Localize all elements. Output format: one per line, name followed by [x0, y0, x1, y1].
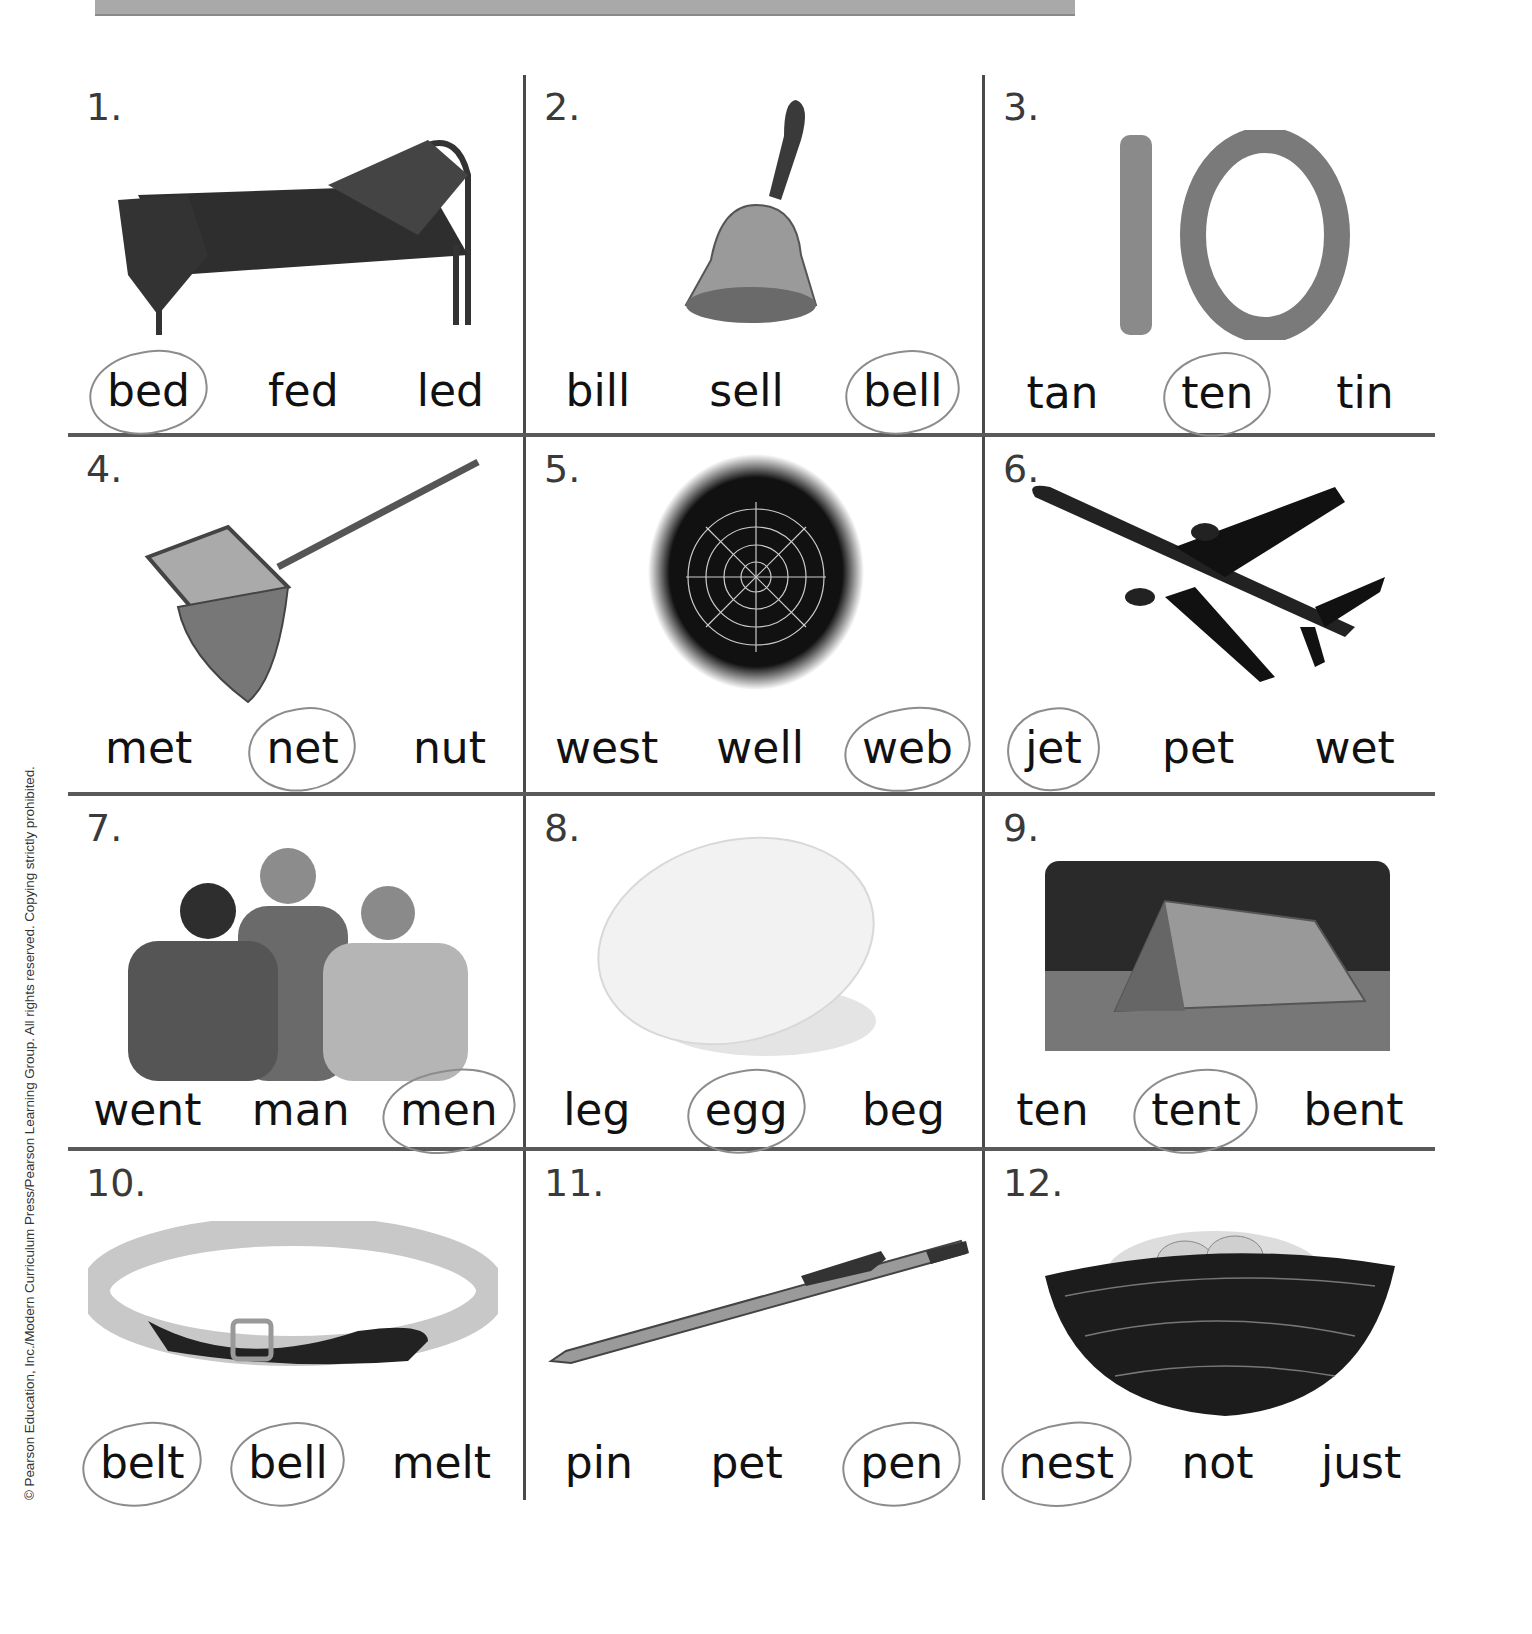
word-choice[interactable]: net — [262, 722, 342, 773]
word-choices: pin pet pen — [526, 1437, 982, 1488]
word-choice[interactable]: nut — [409, 722, 490, 773]
word-choice[interactable]: fed — [264, 365, 343, 416]
word-choice[interactable]: jet — [1021, 722, 1086, 773]
word-choice[interactable]: web — [858, 722, 957, 773]
bell-icon — [666, 95, 846, 335]
exercise-number: 5. — [544, 447, 580, 491]
word-choice[interactable]: pet — [706, 1437, 786, 1488]
number-ten-icon — [1115, 130, 1355, 340]
fishing-net-icon — [138, 457, 488, 707]
word-choice[interactable]: pet — [1158, 722, 1238, 773]
word-choice[interactable]: met — [101, 722, 196, 773]
word-choice[interactable]: ten — [1012, 1084, 1092, 1135]
exercise-cell-12: 12. nest not just — [985, 1151, 1435, 1500]
word-choice[interactable]: bill — [562, 365, 635, 416]
word-choice[interactable]: tin — [1332, 367, 1397, 418]
word-choices: tan ten tin — [985, 367, 1435, 418]
exercise-number: 3. — [1003, 85, 1039, 129]
word-choice[interactable]: pin — [561, 1437, 637, 1488]
word-choice[interactable]: beg — [858, 1084, 949, 1135]
word-choice[interactable]: melt — [388, 1437, 495, 1488]
exercise-cell-4: 4. met net nut — [68, 437, 523, 792]
word-choice[interactable]: west — [551, 722, 662, 773]
belt-icon — [88, 1221, 498, 1381]
word-choice[interactable]: ten — [1177, 367, 1257, 418]
exercise-number: 10. — [86, 1161, 146, 1205]
word-choice[interactable]: wet — [1311, 722, 1399, 773]
word-choice[interactable]: not — [1177, 1437, 1257, 1488]
word-choice[interactable]: bent — [1299, 1084, 1407, 1135]
bed-icon — [98, 125, 488, 335]
header-banner — [95, 0, 1075, 16]
word-choices: bed fed led — [68, 365, 523, 416]
airplane-icon — [1025, 477, 1395, 687]
word-choice[interactable]: just — [1317, 1437, 1405, 1488]
exercise-cell-10: 10. belt bell melt — [68, 1151, 523, 1500]
exercise-number: 2. — [544, 85, 580, 129]
word-choices: ten tent bent — [985, 1084, 1435, 1135]
exercise-cell-9: 9. ten tent bent — [985, 796, 1435, 1147]
word-choice[interactable]: nest — [1015, 1437, 1118, 1488]
word-choices: bill sell bell — [526, 365, 982, 416]
tent-icon — [1045, 861, 1390, 1051]
exercise-number: 8. — [544, 806, 580, 850]
exercise-number: 9. — [1003, 806, 1039, 850]
word-choices: leg egg beg — [526, 1084, 982, 1135]
word-choice[interactable]: bell — [244, 1437, 331, 1488]
spider-web-icon — [646, 452, 866, 692]
exercise-number: 1. — [86, 85, 122, 129]
exercise-number: 7. — [86, 806, 122, 850]
word-choice[interactable]: egg — [701, 1084, 792, 1135]
word-choice[interactable]: man — [248, 1084, 354, 1135]
word-choices: nest not just — [985, 1437, 1435, 1488]
word-choice[interactable]: bell — [859, 365, 946, 416]
word-choice[interactable]: bed — [103, 365, 194, 416]
exercise-cell-11: 11. pin pet pen — [526, 1151, 982, 1500]
word-choices: jet pet wet — [985, 722, 1435, 773]
word-choice[interactable]: led — [413, 365, 488, 416]
worksheet-grid: 1. bed fed led 2. bill sell bell 3. — [68, 75, 1435, 1500]
word-choices: went man men — [68, 1084, 523, 1135]
word-choices: west well web — [526, 722, 982, 773]
exercise-cell-8: 8. leg egg beg — [526, 796, 982, 1147]
pen-icon — [541, 1231, 971, 1371]
exercise-cell-2: 2. bill sell bell — [526, 75, 982, 433]
exercise-cell-3: 3. tan ten tin — [985, 75, 1435, 433]
word-choice[interactable]: went — [89, 1084, 205, 1135]
exercise-cell-6: 6. jet pet wet — [985, 437, 1435, 792]
exercise-number: 12. — [1003, 1161, 1063, 1205]
word-choice[interactable]: pen — [856, 1437, 947, 1488]
word-choice[interactable]: leg — [559, 1084, 634, 1135]
word-choice[interactable]: tent — [1147, 1084, 1244, 1135]
exercise-number: 11. — [544, 1161, 604, 1205]
word-choice[interactable]: sell — [705, 365, 787, 416]
word-choice[interactable]: well — [712, 722, 808, 773]
egg-icon — [596, 831, 896, 1071]
copyright-notice: © Pearson Education, Inc./Modern Curricu… — [22, 766, 37, 1500]
exercise-number: 4. — [86, 447, 122, 491]
exercise-cell-1: 1. bed fed led — [68, 75, 523, 433]
word-choice[interactable]: belt — [96, 1437, 188, 1488]
bird-nest-icon — [1035, 1206, 1405, 1426]
exercise-cell-7: 7. went man men — [68, 796, 523, 1147]
three-men-icon — [123, 841, 473, 1081]
exercise-cell-5: 5. west well web — [526, 437, 982, 792]
word-choice[interactable]: tan — [1022, 367, 1102, 418]
word-choice[interactable]: men — [396, 1084, 502, 1135]
word-choices: belt bell melt — [68, 1437, 523, 1488]
word-choices: met net nut — [68, 722, 523, 773]
